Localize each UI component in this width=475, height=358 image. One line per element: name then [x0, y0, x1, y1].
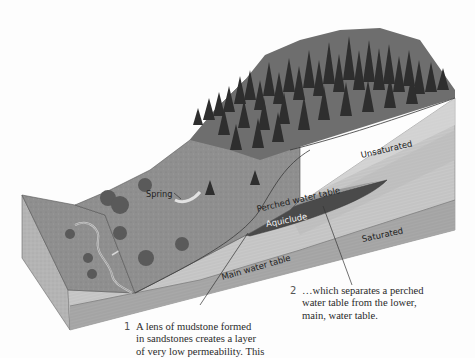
caption-2-line-2: water table from the lower,: [302, 297, 423, 309]
caption-2-number: 2: [290, 285, 296, 297]
caption-2-line-1: …which separates a perched: [302, 285, 423, 297]
caption-1: 1 A lens of mudstone formed in sandstone…: [136, 321, 264, 358]
label-spring: Spring: [146, 189, 172, 199]
caption-1-number: 1: [124, 321, 130, 333]
caption-1-line-2: in sandstones creates a layer: [136, 333, 264, 345]
caption-2-line-3: main, water table.: [302, 310, 423, 322]
block-diagram: Spring Unsaturated Perched water table A…: [0, 0, 475, 358]
caption-1-line-1: A lens of mudstone formed: [136, 321, 264, 333]
caption-1-line-3: of very low permeability. This: [136, 346, 264, 358]
caption-2: 2 …which separates a perched water table…: [302, 285, 423, 322]
